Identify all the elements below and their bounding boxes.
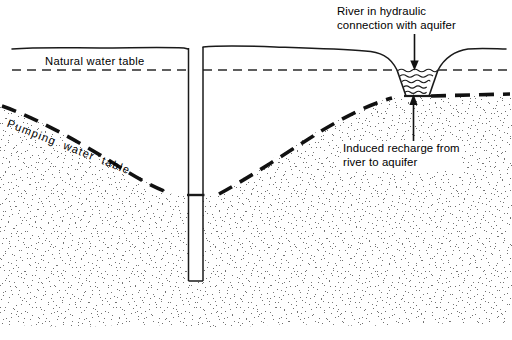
- label-induced-recharge-annotation: Induced recharge fromriver to aquifer: [341, 141, 462, 171]
- induced-recharge-line-1: Induced recharge from: [343, 142, 460, 154]
- ground-surface-line: [12, 48, 188, 49]
- pumping-well: [187, 47, 205, 281]
- river-channel: [397, 69, 438, 96]
- aquifer-stipple-body: [0, 85, 512, 335]
- label-natural-water-table: Natural water table: [45, 55, 145, 69]
- ground-surface-line-right: [203, 46, 397, 70]
- label-river-connection-annotation: River in hydraulicconnection with aquife…: [337, 5, 456, 33]
- river-connection-line-1: River in hydraulic: [337, 5, 426, 17]
- ground-surface-line-far-right: [438, 49, 506, 70]
- river-connection-line-2: connection with aquifer: [337, 19, 456, 31]
- induced-recharge-line-2: river to aquifer: [343, 156, 417, 168]
- river-connection-pointer-arrow: [410, 34, 418, 71]
- hydrogeology-figure: Natural water table Pumping water table …: [0, 0, 512, 340]
